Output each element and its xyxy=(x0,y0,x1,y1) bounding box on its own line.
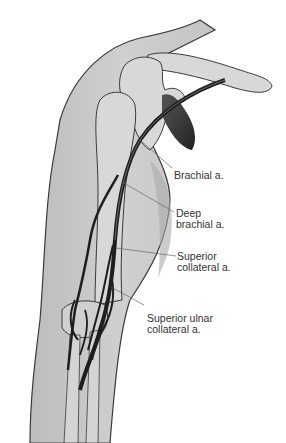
label-line: brachial a. xyxy=(176,219,224,230)
label-line: Brachial a. xyxy=(174,170,224,181)
arm-illustration xyxy=(0,0,286,443)
label-superior-ulnar-collateral-artery: Superior ulnar collateral a. xyxy=(147,313,213,335)
label-superior-collateral-artery: Superior collateral a. xyxy=(177,251,231,273)
label-line: collateral a. xyxy=(177,262,231,273)
label-brachial-artery: Brachial a. xyxy=(174,170,224,181)
label-line: collateral a. xyxy=(147,324,213,335)
label-deep-brachial-artery: Deep brachial a. xyxy=(176,208,224,230)
